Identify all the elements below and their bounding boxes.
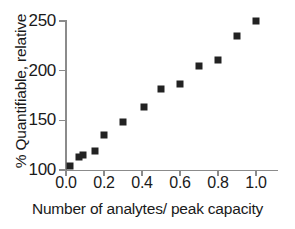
data-point [101,132,108,139]
data-point [120,119,127,126]
data-point [177,80,184,87]
y-axis-tick-label: 200 [0,62,56,79]
data-point [196,62,203,69]
data-point [80,152,87,159]
x-axis-tick-label: 1.0 [234,175,278,191]
y-axis-tick [59,169,65,171]
y-axis-tick-label: 250 [0,12,56,29]
data-point [215,56,222,63]
data-point [140,104,147,111]
y-axis-tick-label: 150 [0,111,56,128]
data-point [253,18,260,25]
data-point [158,85,165,92]
y-axis-tick [59,70,65,72]
scatter-chart-figure: % Quantifiable, relative Number of analy… [0,0,295,229]
data-point [91,148,98,155]
data-point [234,32,241,39]
y-axis-tick [59,20,65,22]
data-point [66,163,73,170]
y-axis-tick [59,120,65,122]
x-axis-title: Number of analytes/ peak capacity [0,200,295,218]
